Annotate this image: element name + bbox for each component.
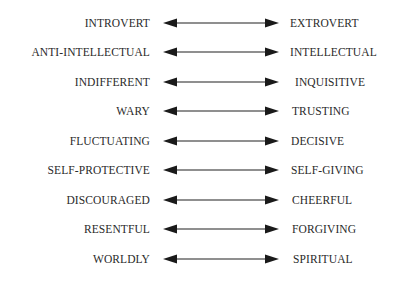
right-trait-label: EXTROVERT (290, 13, 359, 33)
left-trait-label: SELF-PROTECTIVE (48, 160, 150, 180)
double-arrow-icon (163, 193, 279, 207)
double-arrow-icon (163, 163, 279, 177)
spectrum-row: ANTI-INTELLECTUAL INTELLECTUAL (0, 42, 403, 62)
left-trait-label: RESENTFUL (84, 219, 150, 239)
right-trait-label: SPIRITUAL (293, 249, 353, 269)
left-trait-label: INDIFFERENT (75, 72, 150, 92)
right-trait-label: DECISIVE (291, 131, 344, 151)
double-arrow-icon (163, 134, 279, 148)
left-trait-label: DISCOURAGED (66, 190, 150, 210)
double-arrow-icon (163, 75, 279, 89)
right-trait-label: INTELLECTUAL (290, 42, 377, 62)
left-trait-label: INTROVERT (85, 13, 150, 33)
spectrum-row: WARY TRUSTING (0, 101, 403, 121)
left-trait-label: FLUCTUATING (70, 131, 150, 151)
right-trait-label: INQUISITIVE (295, 72, 365, 92)
spectrum-row: FLUCTUATING DECISIVE (0, 131, 403, 151)
double-arrow-icon (163, 45, 279, 59)
double-arrow-icon (163, 16, 279, 30)
spectrum-row: SELF-PROTECTIVE SELF-GIVING (0, 160, 403, 180)
spectrum-row: DISCOURAGED CHEERFUL (0, 190, 403, 210)
left-trait-label: WARY (116, 101, 150, 121)
left-trait-label: ANTI-INTELLECTUAL (31, 42, 150, 62)
spectrum-row: INDIFFERENT INQUISITIVE (0, 72, 403, 92)
right-trait-label: FORGIVING (292, 219, 356, 239)
spectrum-row: INTROVERT EXTROVERT (0, 13, 403, 33)
right-trait-label: SELF-GIVING (291, 160, 364, 180)
spectrum-row: WORLDLY SPIRITUAL (0, 249, 403, 269)
double-arrow-icon (163, 222, 279, 236)
double-arrow-icon (163, 104, 279, 118)
left-trait-label: WORLDLY (93, 249, 150, 269)
right-trait-label: TRUSTING (292, 101, 350, 121)
double-arrow-icon (163, 252, 279, 266)
right-trait-label: CHEERFUL (292, 190, 352, 210)
spectrum-row: RESENTFUL FORGIVING (0, 219, 403, 239)
